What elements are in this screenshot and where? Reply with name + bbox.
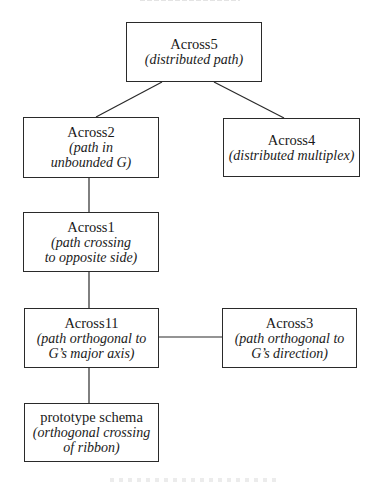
node-desc: (distributed path) (145, 52, 243, 67)
node-desc-line1: (path orthogonal to (235, 331, 345, 346)
node-desc-line1: (path crossing (51, 235, 131, 250)
node-across3: Across3 (path orthogonal to G’s directio… (222, 308, 357, 368)
node-desc-line2: to opposite side) (45, 250, 138, 265)
node-across4: Across4 (distributed multiplex) (223, 118, 360, 177)
node-desc-line2: G’s major axis) (48, 346, 134, 361)
node-title: Across3 (266, 316, 314, 331)
node-desc-line2: G’s direction) (251, 346, 328, 361)
node-title: Across1 (67, 220, 115, 235)
node-desc: (distributed multiplex) (229, 148, 355, 163)
edge-across5-across4 (214, 82, 284, 118)
node-title: prototype schema (40, 410, 143, 425)
node-across2: Across2 (path in unbounded G) (23, 117, 159, 178)
node-desc-line2: of ribbon) (63, 440, 119, 455)
node-title: Across2 (67, 125, 115, 140)
node-across5: Across5 (distributed path) (126, 22, 262, 82)
node-title: Across4 (268, 133, 316, 148)
node-desc-line1: (path in (69, 140, 113, 155)
clipped-caption-text (110, 478, 280, 484)
node-desc-line2: unbounded G) (51, 155, 132, 170)
node-across11: Across11 (path orthogonal to G’s major a… (24, 308, 159, 368)
node-prototype-schema: prototype schema (orthogonal crossing of… (24, 403, 159, 462)
node-across1: Across1 (path crossing to opposite side) (23, 212, 159, 272)
node-desc-line1: (orthogonal crossing (33, 425, 150, 440)
node-title: Across11 (64, 316, 118, 331)
node-desc-line1: (path orthogonal to (37, 331, 147, 346)
edge-across5-across2 (96, 82, 162, 117)
node-title: Across5 (170, 37, 218, 52)
